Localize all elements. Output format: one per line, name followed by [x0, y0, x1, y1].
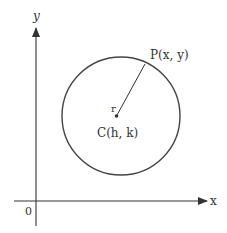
circle-diagram: y x 0 P(x, y) r C(h, k): [0, 0, 227, 233]
point-label: P(x, y): [150, 48, 189, 62]
y-axis-label: y: [32, 9, 40, 23]
center-label: C(h, k): [97, 126, 138, 140]
x-axis-label: x: [210, 194, 217, 208]
circle: [62, 57, 180, 175]
center-point: [115, 114, 119, 118]
origin-label: 0: [25, 205, 32, 218]
radius-label: r: [111, 103, 116, 114]
radius-line: [117, 64, 146, 116]
